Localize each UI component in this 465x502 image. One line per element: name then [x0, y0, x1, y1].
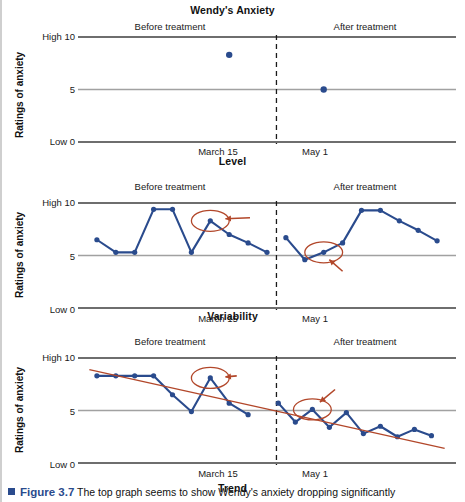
data-point [378, 208, 383, 213]
series-line-0 [97, 209, 267, 252]
data-point [361, 431, 366, 436]
data-point [151, 373, 156, 378]
data-point [416, 228, 421, 233]
data-point [113, 250, 118, 255]
data-point [264, 250, 269, 255]
data-point [344, 410, 349, 415]
data-point [293, 419, 298, 424]
data-point [429, 433, 434, 438]
data-point [189, 250, 194, 255]
data-point [227, 232, 232, 237]
data-point [151, 207, 156, 212]
series-line-1 [286, 210, 437, 259]
plot-area-trend [0, 310, 465, 485]
data-point [340, 240, 345, 245]
data-point [208, 375, 213, 380]
panel-level: Wendy's Anxiety Before treatment After t… [0, 0, 465, 160]
data-point [94, 237, 99, 242]
data-point [321, 86, 327, 92]
data-point [435, 238, 440, 243]
caption-bullet-icon [8, 488, 15, 495]
panel-variability: Level Before treatment After treatment R… [0, 155, 465, 315]
series-line-1 [278, 403, 431, 437]
data-point [283, 235, 288, 240]
data-point [246, 412, 251, 417]
plot-area-level [0, 0, 465, 160]
data-point [397, 218, 402, 223]
plot-area-variability [0, 155, 465, 330]
data-point [310, 407, 315, 412]
data-point [412, 427, 417, 432]
caption-body: The top graph seems to show Wendy's anxi… [77, 486, 395, 498]
data-point [321, 250, 326, 255]
data-point [132, 250, 137, 255]
figure-caption: Figure 3.7 The top graph seems to show W… [0, 486, 465, 499]
figure-3-7: Wendy's Anxiety Before treatment After t… [0, 0, 465, 502]
panel-trend: Variability Before treatment After treat… [0, 310, 465, 485]
data-point [378, 424, 383, 429]
data-point [170, 207, 175, 212]
data-point [208, 218, 213, 223]
trend-line [89, 370, 444, 449]
caption-figure-number: Figure 3.7 [20, 486, 74, 498]
data-point [327, 425, 332, 430]
data-point [94, 373, 99, 378]
data-point [302, 257, 307, 262]
data-point [170, 392, 175, 397]
data-point [246, 240, 251, 245]
data-point [132, 373, 137, 378]
data-point [189, 409, 194, 414]
data-point [226, 52, 232, 58]
data-point [276, 401, 281, 406]
data-point [359, 208, 364, 213]
